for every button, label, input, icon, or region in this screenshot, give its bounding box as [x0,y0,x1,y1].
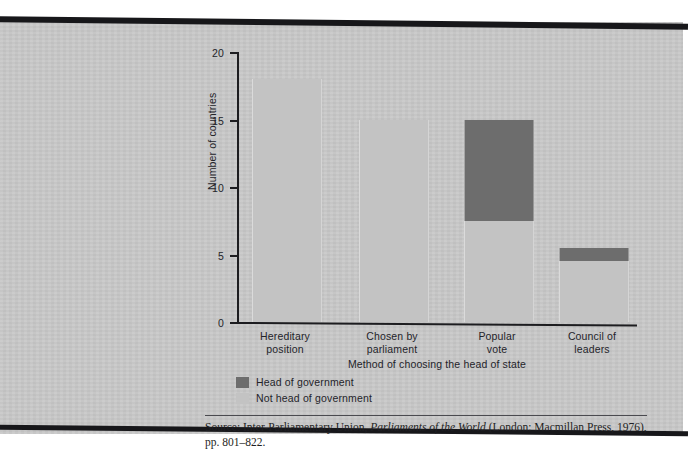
y-tick-label-10: 10 [212,182,224,194]
bar-edge-left [252,79,253,322]
bar-edge-left [359,120,360,323]
x-axis-label: Method of choosing the head of state [237,358,637,370]
y-tick-10: 10 [230,187,238,189]
x-category-line: Hereditary [240,330,330,343]
legend-label: Not head of government [256,392,372,404]
bar-segment-not-head-of-government [359,120,429,323]
x-category-hereditary-position: Hereditary position [240,330,330,356]
y-tick-20: 20 [230,52,238,54]
bar-group [239,52,637,322]
y-tick-label-5: 5 [218,249,224,261]
bar-chosen-by-parliament [359,120,429,323]
legend-label: Head of government [256,376,354,388]
x-category-line: Popular [452,330,542,343]
y-tick-15: 15 [230,120,238,122]
source-note: Source: Inter-Parliamentary Union, Parli… [205,420,653,449]
bar-hereditary-position [252,79,322,322]
bar-council-of-leaders [559,248,629,322]
y-tick-label-20: 20 [212,47,224,59]
chart-legend: Head of government Not head of governmen… [236,375,372,407]
x-category-chosen-by-parliament: Chosen by parliament [347,330,437,356]
bar-popular-vote [464,120,534,323]
plot-area: 20 15 10 5 0 [237,52,637,324]
bar-edge-right [628,248,629,322]
x-category-council-of-leaders: Council of leaders [547,330,637,356]
bar-edge-right [428,120,429,323]
y-tick-0: 0 [230,322,238,324]
bar-segment-not-head-of-government [464,221,534,322]
bar-edge-left [559,248,560,322]
bar-segment-not-head-of-government [559,261,629,322]
legend-swatch-dark [236,377,249,388]
x-category-line: Council of [547,330,637,343]
legend-item-not-head-of-government: Not head of government [236,391,372,405]
x-category-line: position [240,343,330,356]
x-axis-line [237,322,637,326]
bar-chart: Number of countries 20 15 10 5 0 [0,22,683,434]
bar-segment-head-of-government [464,120,534,221]
bar-segment-not-head-of-government [252,79,322,322]
legend-item-head-of-government: Head of government [236,375,372,389]
y-tick-label-0: 0 [218,317,224,329]
bar-segment-head-of-government [559,248,629,262]
source-prefix: Source: Inter-Parliamentary Union, [205,421,370,433]
bar-edge-right [321,79,322,322]
source-divider [205,415,647,416]
x-category-line: vote [452,343,542,356]
x-category-popular-vote: Popular vote [452,330,542,356]
y-tick-label-15: 15 [212,114,224,126]
bar-edge-right [533,120,534,323]
x-category-line: Chosen by [347,330,437,343]
y-axis-label: Number of countries [206,93,218,190]
legend-swatch-light [236,393,249,404]
x-category-line: parliament [347,343,437,356]
x-category-line: leaders [547,343,637,356]
bar-edge-left [464,120,465,323]
y-tick-5: 5 [230,255,238,257]
source-title: Parliaments of the World [370,421,486,433]
